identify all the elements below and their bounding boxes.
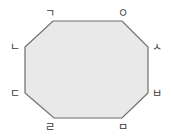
octagon-figure: ㄱ ㅇ ㅅ ㅂ ㅁ ㄹ ㄷ ㄴ	[0, 0, 171, 140]
vertex-label-top-right: ㅇ	[118, 8, 128, 19]
vertex-label-right-upper: ㅅ	[152, 42, 162, 53]
octagon-polygon	[25, 21, 148, 118]
octagon-shape	[0, 0, 171, 140]
vertex-label-bottom-right: ㅁ	[118, 122, 128, 133]
vertex-label-left-upper: ㄴ	[10, 42, 20, 53]
vertex-label-bottom-left: ㄹ	[45, 122, 55, 133]
vertex-label-top-left: ㄱ	[45, 8, 55, 19]
vertex-label-right-lower: ㅂ	[152, 88, 162, 99]
vertex-label-left-lower: ㄷ	[10, 88, 20, 99]
